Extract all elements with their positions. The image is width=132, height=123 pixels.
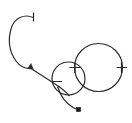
figure-background (0, 0, 132, 123)
terminal-dot-marker (76, 107, 80, 111)
markers-group (76, 107, 80, 111)
figure-canvas (0, 0, 132, 123)
line-art-figure (0, 0, 132, 123)
